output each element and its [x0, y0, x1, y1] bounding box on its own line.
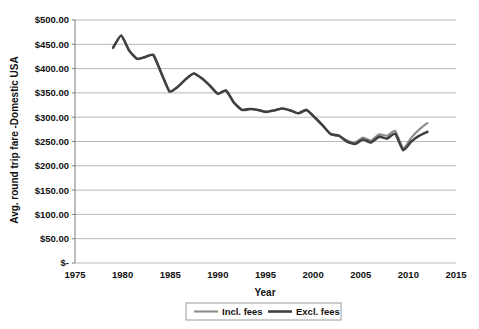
y-axis-title: Avg. round trip fare -Domestic USA: [9, 56, 20, 223]
y-axis-tick-label: $450.00: [35, 39, 69, 50]
y-axis-tick-label: $250.00: [35, 136, 69, 147]
chart-plot-wrapper: $-$50.00$100.00$150.00$200.00$250.00$300…: [0, 0, 479, 329]
chart-legend: Incl. fees Excl. fees: [186, 303, 341, 320]
y-axis-tick-label: $350.00: [35, 87, 69, 98]
x-axis-tick-label: 2005: [350, 269, 372, 280]
x-axis-tick-label: 1975: [64, 269, 86, 280]
y-axis-tick-label: $50.00: [40, 233, 69, 244]
x-axis-tick-label: 1995: [255, 269, 277, 280]
legend-label-incl-fees: Incl. fees: [222, 306, 263, 317]
series-line-incl-fees: [113, 36, 427, 149]
chart-figure: $-$50.00$100.00$150.00$200.00$250.00$300…: [0, 0, 479, 329]
y-axis-tick-label: $-: [61, 257, 69, 268]
x-axis-ticks-group: 197519801985199019952000200520102015: [64, 269, 467, 280]
y-axis-tick-label: $300.00: [35, 112, 69, 123]
x-axis-tick-label: 2015: [445, 269, 467, 280]
chart-svg: $-$50.00$100.00$150.00$200.00$250.00$300…: [0, 0, 479, 329]
y-axis-tick-label: $150.00: [35, 185, 69, 196]
y-axis-tick-label: $500.00: [35, 14, 69, 25]
x-axis-tick-label: 2010: [398, 269, 419, 280]
x-axis-tick-label: 2000: [303, 269, 324, 280]
y-axis-tick-label: $200.00: [35, 160, 69, 171]
legend-label-excl-fees: Excl. fees: [296, 306, 340, 317]
y-axis-tick-label: $100.00: [35, 209, 69, 220]
x-axis-tick-label: 1985: [160, 269, 182, 280]
x-axis-tick-label: 1990: [207, 269, 228, 280]
y-axis-tick-label: $400.00: [35, 63, 69, 74]
x-axis-title: Year: [254, 287, 275, 298]
x-axis-tick-label: 1980: [112, 269, 133, 280]
y-axis-ticks-group: $-$50.00$100.00$150.00$200.00$250.00$300…: [35, 14, 75, 268]
